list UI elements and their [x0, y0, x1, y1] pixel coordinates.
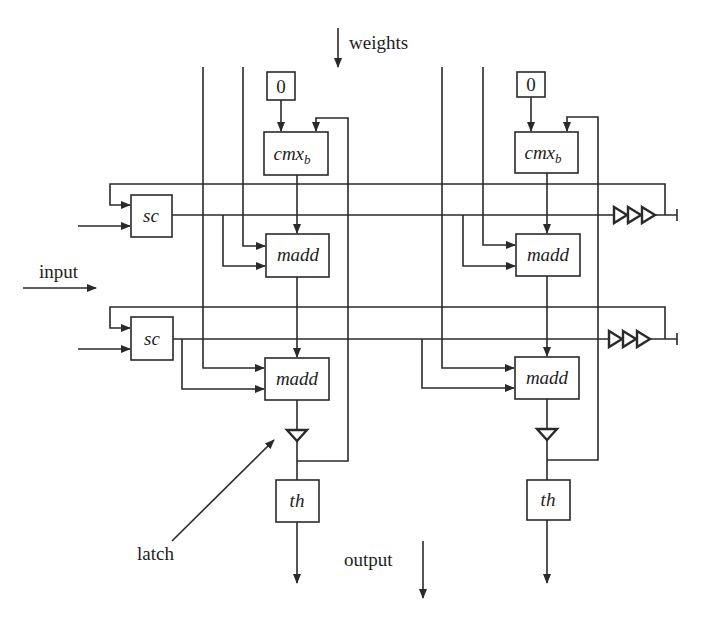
input-label: input	[39, 261, 79, 282]
col-2-th-block: th	[527, 480, 570, 520]
col-2-madd-1-block: madd	[516, 234, 580, 276]
row-1-sc-block: sc	[131, 195, 172, 237]
delay-buffer-icon	[628, 207, 641, 223]
latch-arrow	[172, 440, 274, 541]
delay-buffer-icon	[642, 207, 655, 223]
systolic-diagram: weights input latch output	[0, 0, 702, 621]
delay-buffer-icon	[623, 331, 636, 347]
delay-buffer-icon	[614, 207, 627, 223]
col-1-weight-wire-a	[203, 67, 264, 368]
row-2-feedback-wire	[110, 307, 665, 339]
row-1-feedback-wire	[110, 184, 665, 215]
col-1-weight-wire-b	[243, 67, 265, 246]
col-2-madd-2-label: madd	[526, 367, 569, 388]
row-2-delay-stages	[609, 331, 650, 347]
col-1-cmx-subscript: b	[304, 152, 311, 167]
latch-label: latch	[137, 543, 174, 564]
output-label: output	[344, 549, 393, 570]
input-indicator: input	[23, 261, 96, 288]
output-indicator: output	[344, 541, 423, 598]
col-2-latch-icon	[537, 429, 557, 440]
col-2-madd-1-label: madd	[527, 244, 570, 265]
col-1-zero-label: 0	[276, 76, 286, 97]
col-2-weight-wire-b	[483, 67, 515, 245]
col-1-madd-1-block: madd	[266, 234, 329, 277]
col-1-madd-2-block: madd	[265, 358, 329, 400]
col-1-row-1-tap	[223, 215, 265, 266]
col-1-cmx-label: cmx	[273, 143, 304, 164]
col-1-th-label: th	[290, 490, 305, 511]
row-2-sc-label: sc	[144, 328, 160, 349]
delay-buffer-icon	[637, 331, 650, 347]
weights-label: weights	[349, 32, 408, 53]
col-1-th-block: th	[276, 480, 319, 522]
col-1-madd-2-label: madd	[276, 368, 319, 389]
col-2-zero-block: 0	[517, 72, 545, 97]
col-2-cmx-block: cmxb	[515, 132, 578, 173]
col-2-row-2-tap	[422, 339, 514, 388]
col-2-row-1-tap	[463, 215, 515, 266]
col-2-zero-label: 0	[526, 74, 536, 95]
latch-indicator: latch	[137, 440, 274, 564]
row-1-delay-stages	[614, 207, 655, 223]
col-2-cmx-label: cmx	[524, 142, 555, 163]
col-1-row-2-tap	[182, 339, 264, 389]
col-1-madd-1-label: madd	[277, 244, 320, 265]
col-2-weight-wire-a	[442, 67, 514, 368]
col-2-th-label: th	[541, 489, 556, 510]
row-1-sc-label: sc	[143, 205, 159, 226]
row-2-sc-block: sc	[131, 317, 173, 360]
delay-buffer-icon	[609, 331, 622, 347]
col-2-madd-2-block: madd	[515, 357, 579, 399]
col-1-zero-block: 0	[267, 72, 295, 100]
col-1-latch-icon	[287, 430, 307, 441]
col-1-cmx-block: cmxb	[264, 132, 328, 175]
col-2-cmx-subscript: b	[555, 151, 562, 166]
weights-indicator: weights	[338, 28, 408, 67]
